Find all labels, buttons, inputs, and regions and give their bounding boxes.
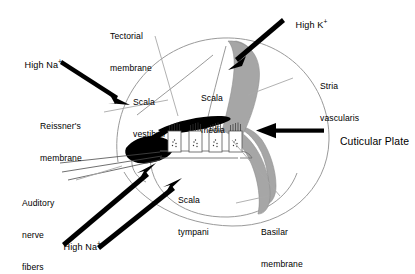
label-high-k-top-right: High K+ [285, 9, 327, 41]
label-high-na-upper-left: High Na+ [14, 49, 62, 81]
label-reissners-membrane: Reissner's membrane [40, 100, 82, 185]
label-scala-tympani: Scala tympani [178, 174, 209, 259]
label-high-na-lower-left: High Na+ [53, 231, 101, 263]
arrow-high-na-lower-left-b [97, 178, 182, 250]
label-scala-vestibuli: Scala vestibuli [133, 76, 165, 161]
label-basilar-membrane: Basilar membrane [261, 206, 303, 274]
label-scala-media: Scala media [201, 72, 225, 157]
label-cuticular-plate: Cuticular Plate [328, 124, 409, 160]
arrow-cuticular-plate [256, 123, 324, 138]
label-auditory-nerve-fibers: Auditory nerve fibers [22, 177, 54, 274]
